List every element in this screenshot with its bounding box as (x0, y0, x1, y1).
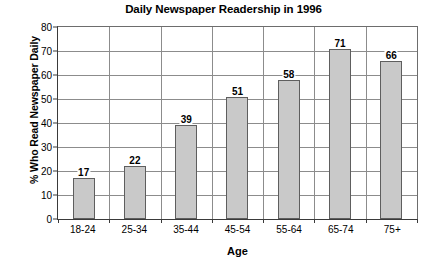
x-category-label: 45-54 (212, 224, 264, 235)
x-category-label: 25-34 (109, 224, 161, 235)
bar: 17 (73, 178, 95, 219)
bar: 51 (226, 97, 248, 219)
bar-slot: 22 (109, 27, 160, 219)
x-category-label: 75+ (366, 224, 418, 235)
y-tick-label: 20 (41, 166, 58, 177)
x-category-label: 35-44 (160, 224, 212, 235)
bar-chart: Daily Newspaper Readership in 1996 % Who… (0, 0, 447, 268)
x-axis-category-labels: 18-2425-3435-4445-5455-6465-7475+ (57, 224, 418, 235)
bar-slot: 58 (263, 27, 314, 219)
y-tick-label: 40 (41, 118, 58, 129)
bar-slot: 71 (314, 27, 365, 219)
x-category-label: 55-64 (263, 224, 315, 235)
bar: 22 (124, 166, 146, 219)
bar: 66 (380, 61, 402, 219)
bar-value-label: 51 (231, 86, 244, 97)
bar-value-label: 17 (77, 167, 90, 178)
y-tick-label: 80 (41, 22, 58, 33)
bar: 71 (329, 49, 351, 219)
x-category-label: 65-74 (315, 224, 367, 235)
bar-value-label: 58 (282, 69, 295, 80)
y-tick-label: 30 (41, 142, 58, 153)
x-tick-mark (212, 219, 213, 223)
x-tick-mark (314, 219, 315, 223)
bar-series: 17223951587166 (58, 27, 417, 219)
bar-slot: 17 (58, 27, 109, 219)
bar-value-label: 22 (128, 155, 141, 166)
y-tick-label: 70 (41, 46, 58, 57)
bar-slot: 51 (212, 27, 263, 219)
x-tick-mark (263, 219, 264, 223)
bar-value-label: 39 (180, 114, 193, 125)
bar-value-label: 71 (333, 38, 346, 49)
x-tick-mark (366, 219, 367, 223)
x-tick-mark (58, 219, 59, 223)
y-tick-label: 60 (41, 70, 58, 81)
y-tick-label: 50 (41, 94, 58, 105)
chart-title: Daily Newspaper Readership in 1996 (0, 3, 447, 15)
bar-slot: 66 (366, 27, 417, 219)
x-tick-mark (109, 219, 110, 223)
bar: 58 (278, 80, 300, 219)
bar: 39 (175, 125, 197, 219)
bar-slot: 39 (161, 27, 212, 219)
x-tick-mark (161, 219, 162, 223)
x-tick-mark (417, 219, 418, 223)
y-tick-label: 0 (46, 214, 58, 225)
x-category-label: 18-24 (57, 224, 109, 235)
plot-area: 01020304050607080 17223951587166 (57, 26, 418, 220)
y-axis-title: % Who Read Newspaper Daily (28, 10, 40, 210)
bar-value-label: 66 (385, 50, 398, 61)
y-tick-label: 10 (41, 190, 58, 201)
x-axis-title: Age (57, 245, 418, 257)
